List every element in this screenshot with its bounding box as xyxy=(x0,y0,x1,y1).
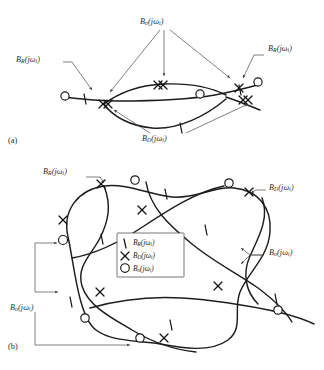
label-b-topright-BD: BD(jωi) xyxy=(269,183,294,192)
x-mark xyxy=(96,288,104,296)
leader-line xyxy=(35,243,57,250)
leader-group-a xyxy=(63,30,264,133)
leader-line xyxy=(170,30,230,78)
tick-mark xyxy=(165,189,167,199)
circle-mark xyxy=(121,264,130,273)
label-b-right-Bo: Bo(jωi) xyxy=(269,248,292,257)
circle-mark xyxy=(81,314,89,322)
curve-a-lower xyxy=(104,99,226,128)
figure-root: BR(jωi) Bo(jωi) BR(jωi) BD(jωi) (a) BR(j… xyxy=(0,0,324,370)
panel-b-graphic xyxy=(35,176,314,352)
leader-line xyxy=(35,250,58,292)
circle-mark xyxy=(136,334,144,342)
label-b-left-Bo: Bo(jωi) xyxy=(10,303,33,312)
leader-line xyxy=(110,30,160,92)
label-a-left-BR: BR(jωi) xyxy=(16,55,40,64)
label-a-right-BR: BR(jωi) xyxy=(268,44,292,53)
curve-a-right-tail xyxy=(226,97,260,110)
circle-mark xyxy=(274,306,282,314)
tick-mark xyxy=(70,297,72,307)
x-mark xyxy=(138,206,146,214)
x-mark xyxy=(59,216,67,224)
leader-line xyxy=(243,55,264,78)
label-a-bottom-BD: BD(jωi) xyxy=(142,134,167,143)
panel-label-a: (a) xyxy=(8,136,17,145)
marker-group-a xyxy=(61,78,262,133)
tick-mark xyxy=(170,320,172,330)
label-a-top-Bo: Bo(jωi) xyxy=(140,17,163,26)
leader-line xyxy=(86,177,104,183)
circle-mark xyxy=(196,90,204,98)
leader-line xyxy=(251,190,266,193)
legend-entry-BD: BD(jωi) xyxy=(133,251,155,260)
x-mark xyxy=(159,81,167,89)
x-mark xyxy=(214,282,222,290)
curve-b-right xyxy=(246,198,265,304)
leader-line xyxy=(63,62,92,90)
legend-entry-BR: BR(jωi) xyxy=(133,238,154,247)
x-mark xyxy=(160,334,168,342)
circle-mark xyxy=(254,78,262,86)
panel-a-graphic xyxy=(61,30,264,133)
x-mark xyxy=(245,188,253,196)
label-b-topleft-BR: BR(jωi) xyxy=(43,167,67,176)
legend-entry-Bo: Bo(jωi) xyxy=(133,264,154,273)
circle-mark xyxy=(59,236,68,245)
x-mark xyxy=(244,96,252,104)
leader-line xyxy=(114,110,150,133)
panel-label-b: (b) xyxy=(8,342,18,351)
circle-mark xyxy=(131,176,139,184)
tick-mark xyxy=(205,225,207,235)
circle-mark xyxy=(225,179,233,187)
circle-mark xyxy=(61,92,69,100)
